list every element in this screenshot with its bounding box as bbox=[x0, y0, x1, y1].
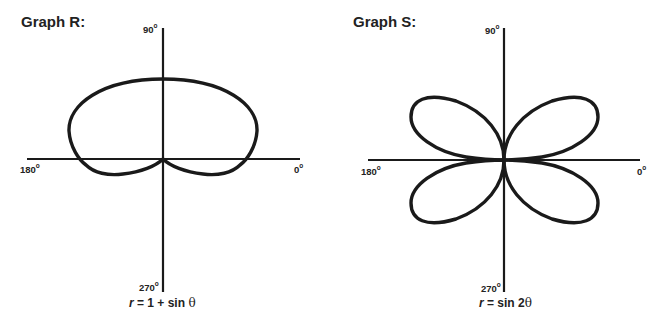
graph-r-label-270: 270o bbox=[139, 281, 159, 293]
graph-s-label-0: 0o bbox=[637, 165, 646, 177]
graph-r-label-0: 0o bbox=[294, 163, 303, 175]
graph-s-panel: Graph S: 90o 180o 0o 270o r = sin 2θ bbox=[332, 0, 663, 327]
graph-s-label-180: 180o bbox=[361, 165, 381, 177]
graph-r-label-90: 90o bbox=[143, 23, 158, 35]
graph-r-label-180: 180o bbox=[20, 163, 40, 175]
graph-s-label-270: 270o bbox=[481, 282, 501, 294]
graph-s-petal-q3 bbox=[411, 160, 504, 223]
graph-r-equation: r = 1 + sin θ bbox=[129, 296, 196, 310]
graph-s-label-90: 90o bbox=[485, 24, 500, 36]
graph-s-petal-q2 bbox=[411, 97, 504, 160]
graph-s-petal-q4 bbox=[504, 160, 598, 223]
graph-r-panel: Graph R: 90o 180o 0o 270o r = 1 + sin θ bbox=[0, 0, 331, 327]
graph-s-petal-q1 bbox=[504, 97, 598, 160]
graph-s-plot bbox=[332, 0, 663, 327]
graph-r-plot bbox=[0, 0, 331, 327]
graph-s-equation: r = sin 2θ bbox=[479, 296, 532, 310]
